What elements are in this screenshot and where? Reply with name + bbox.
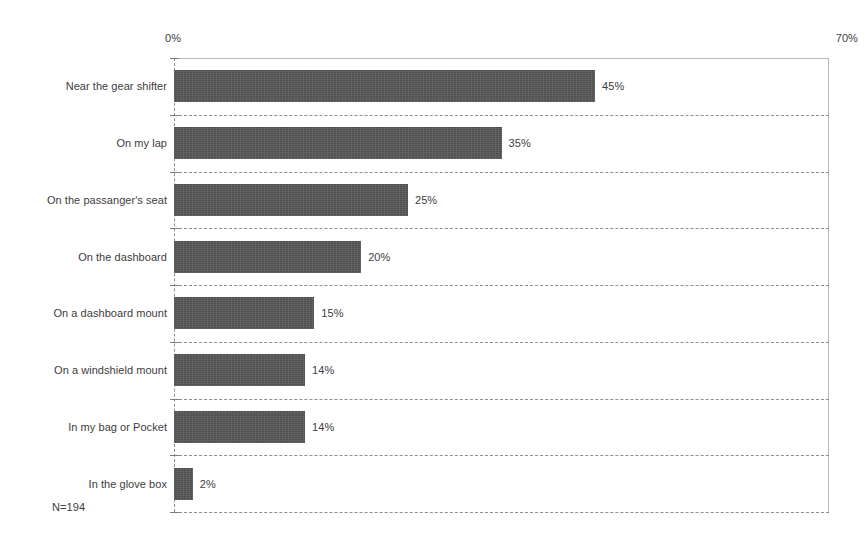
bar — [174, 411, 305, 443]
category-label: On the dashboard — [0, 241, 167, 273]
bar — [174, 297, 314, 329]
gridline — [174, 285, 829, 286]
category-label: In the glove box — [0, 468, 167, 500]
axis-tick — [170, 115, 179, 116]
gridline — [174, 342, 829, 343]
bar-value-label: 15% — [321, 297, 343, 329]
category-label: In my bag or Pocket — [0, 411, 167, 443]
axis-tick — [170, 172, 179, 173]
bar-chart: 0% 70% 45%35%25%20%15%14%14%2% Near the … — [0, 0, 865, 542]
gridline — [174, 172, 829, 173]
axis-tick — [170, 285, 179, 286]
bar — [174, 468, 193, 500]
gridline — [174, 455, 829, 456]
category-label: On my lap — [0, 127, 167, 159]
bar — [174, 184, 408, 216]
axis-tick — [170, 228, 179, 229]
bar-value-label: 25% — [415, 184, 437, 216]
axis-tick — [170, 455, 179, 456]
bar — [174, 354, 305, 386]
axis-tick — [170, 512, 179, 513]
bar-value-label: 14% — [312, 354, 334, 386]
sample-size-note: N=194 — [52, 501, 85, 513]
gridline — [174, 399, 829, 400]
axis-tick — [170, 399, 179, 400]
x-axis-tick-label-min: 0% — [165, 32, 181, 44]
bar-value-label: 20% — [368, 241, 390, 273]
bar-value-label: 45% — [602, 70, 624, 102]
category-label: On the passanger's seat — [0, 184, 167, 216]
gridline — [174, 512, 829, 513]
bar — [174, 127, 502, 159]
bar — [174, 70, 595, 102]
bar-value-label: 2% — [200, 468, 216, 500]
axis-tick — [170, 342, 179, 343]
gridline — [174, 228, 829, 229]
category-label: On a dashboard mount — [0, 297, 167, 329]
category-label: On a windshield mount — [0, 354, 167, 386]
gridline — [174, 115, 829, 116]
category-label: Near the gear shifter — [0, 70, 167, 102]
bar-value-label: 14% — [312, 411, 334, 443]
bar-value-label: 35% — [509, 127, 531, 159]
bar — [174, 241, 361, 273]
axis-tick — [170, 58, 179, 59]
plot-area: 45%35%25%20%15%14%14%2% — [174, 58, 829, 512]
x-axis-top-line — [174, 58, 829, 59]
x-axis-tick-label-max: 70% — [760, 32, 858, 44]
